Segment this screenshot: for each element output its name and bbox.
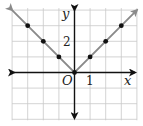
y-tick-label: 2: [63, 35, 71, 49]
data-point: [72, 70, 77, 75]
data-point: [57, 55, 62, 60]
origin-label: O: [62, 73, 73, 88]
data-point: [41, 39, 46, 44]
x-axis-label: x: [124, 73, 132, 88]
data-point: [103, 39, 108, 44]
y-axis-label: y: [61, 6, 70, 21]
data-point: [88, 55, 93, 60]
data-point: [25, 23, 30, 28]
x-tick-label: 1: [86, 74, 94, 88]
graph: y x O 1 2: [0, 0, 143, 126]
data-point: [119, 23, 124, 28]
